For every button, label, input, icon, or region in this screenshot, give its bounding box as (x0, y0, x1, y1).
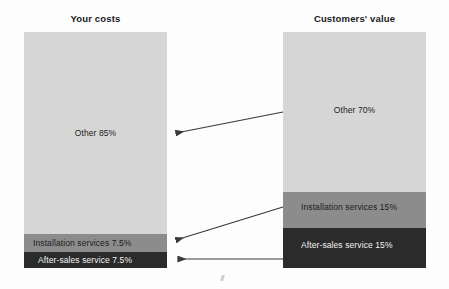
segment-label-after-sales-left: After-sales service 7.5% (38, 255, 132, 265)
segment-label-installation-left: Installation services 7.5% (33, 238, 132, 248)
column-title-your-costs: Your costs (24, 13, 167, 24)
diagram-canvas: Your costs Customers' value Other 85% In… (0, 0, 449, 289)
segment-label-other-right: Other 70% (283, 105, 426, 115)
arrow-other-70-to-85 (176, 112, 283, 133)
stacked-bar-customers-value: Other 70% Installation services 15% Afte… (283, 32, 426, 268)
scan-artifact (220, 275, 225, 282)
column-title-customers-value: Customers' value (283, 13, 426, 24)
segment-label-other-left: Other 85% (24, 128, 167, 138)
segment-label-installation-right: Installation services 15% (301, 202, 397, 212)
arrow-installation-15-to-7-5 (176, 207, 283, 240)
segment-label-after-sales-right: After-sales service 15% (301, 240, 393, 250)
stacked-bar-your-costs: Other 85% Installation services 7.5% Aft… (24, 32, 167, 268)
